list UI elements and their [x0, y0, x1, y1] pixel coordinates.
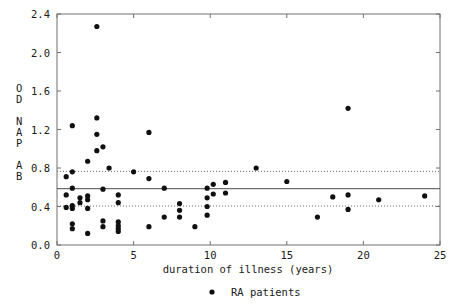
data-point [77, 195, 82, 200]
x-tick-label: 5 [130, 249, 136, 261]
y-axis-label-char: B [16, 170, 22, 182]
data-point [422, 193, 427, 198]
x-axis-title: duration of illness (years) [163, 263, 334, 275]
data-point [94, 148, 99, 153]
data-point [146, 176, 151, 181]
data-point [192, 224, 197, 229]
data-point [205, 186, 210, 191]
data-point [345, 207, 350, 212]
data-point [211, 191, 216, 196]
x-tick-label: 0 [54, 249, 60, 261]
data-point [205, 204, 210, 209]
data-point [162, 186, 167, 191]
axes-frame [57, 14, 440, 245]
data-point [64, 192, 69, 197]
data-point [70, 206, 75, 211]
axis-tick-labels: 05101520250.00.40.81.21.62.02.4 [31, 8, 446, 261]
x-tick-label: 25 [434, 249, 447, 261]
y-tick-label: 0.0 [31, 239, 50, 251]
data-point [345, 106, 350, 111]
data-point [330, 194, 335, 199]
plot-canvas: 05101520250.00.40.81.21.62.02.4 ODNAPAB … [0, 0, 457, 307]
data-point [162, 214, 167, 219]
data-point [106, 165, 111, 170]
legend-label: RA patients [231, 286, 301, 298]
data-point [70, 221, 75, 226]
y-tick-label: 0.8 [31, 162, 50, 174]
scatter-plot-figure: 05101520250.00.40.81.21.62.02.4 ODNAPAB … [0, 0, 457, 307]
data-point [315, 214, 320, 219]
data-point [100, 224, 105, 229]
data-point [64, 174, 69, 179]
data-point [94, 24, 99, 29]
x-tick-label: 10 [204, 249, 217, 261]
data-point [100, 187, 105, 192]
y-tick-label: 2.4 [31, 8, 50, 20]
axis-ticks [57, 14, 440, 245]
y-axis-label-char: D [16, 93, 22, 105]
legend-marker-icon [209, 289, 214, 294]
legend: RA patients [209, 286, 300, 298]
data-point [205, 213, 210, 218]
x-tick-label: 20 [357, 249, 370, 261]
data-point [211, 182, 216, 187]
x-tick-label: 15 [280, 249, 293, 261]
data-point [205, 195, 210, 200]
data-point [116, 192, 121, 197]
data-point [70, 169, 75, 174]
data-point [100, 218, 105, 223]
data-point [345, 192, 350, 197]
data-point [70, 186, 75, 191]
y-axis-label: ODNAPAB [16, 82, 23, 182]
data-points [64, 24, 428, 236]
data-point [146, 130, 151, 135]
y-tick-label: 2.0 [31, 47, 50, 59]
data-point [131, 169, 136, 174]
y-tick-label: 1.2 [31, 124, 50, 136]
data-point [223, 180, 228, 185]
data-point [70, 226, 75, 231]
data-point [85, 197, 90, 202]
y-axis-label-char: P [16, 137, 22, 149]
data-point [146, 224, 151, 229]
data-point [177, 208, 182, 213]
data-point [254, 165, 259, 170]
plot-frame [57, 14, 440, 245]
data-point [100, 144, 105, 149]
data-point [85, 159, 90, 164]
data-point [116, 200, 121, 205]
y-tick-label: 0.4 [31, 201, 50, 213]
data-point [85, 206, 90, 211]
reference-lines [57, 171, 440, 206]
data-point [177, 201, 182, 206]
data-point [94, 132, 99, 137]
data-point [77, 200, 82, 205]
data-point [94, 115, 99, 120]
data-point [64, 205, 69, 210]
data-point [177, 214, 182, 219]
data-point [85, 231, 90, 236]
data-point [70, 123, 75, 128]
data-point [223, 190, 228, 195]
data-point [284, 179, 289, 184]
data-point [116, 229, 121, 234]
data-point [376, 197, 381, 202]
y-tick-label: 1.6 [31, 85, 50, 97]
